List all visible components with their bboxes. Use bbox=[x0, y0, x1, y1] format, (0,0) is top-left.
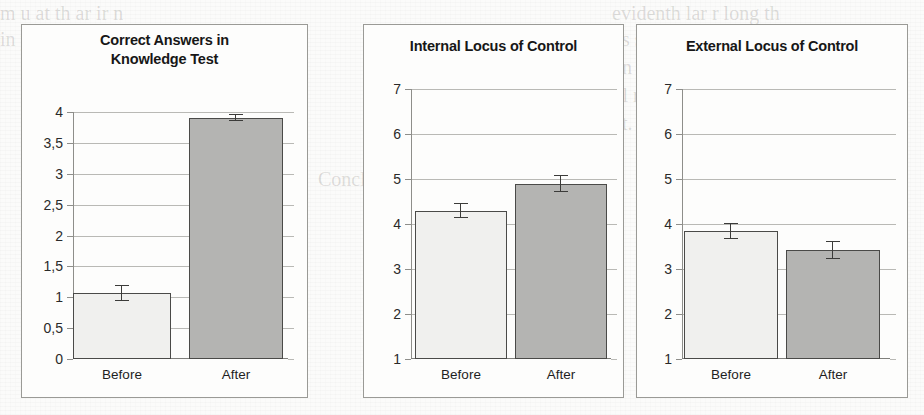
y-axis-tick-right bbox=[288, 143, 294, 144]
error-bar-cap-bottom bbox=[115, 300, 129, 301]
y-axis-label: 6 bbox=[367, 127, 401, 141]
y-axis-tick-right bbox=[288, 174, 294, 175]
y-axis-tick-right bbox=[288, 359, 294, 360]
y-axis-label: 0,5 bbox=[23, 321, 63, 335]
x-axis-label-before: Before bbox=[73, 367, 171, 382]
y-axis-label: 4 bbox=[23, 105, 63, 119]
y-axis-tick-right bbox=[288, 205, 294, 206]
chart-title-line: Internal Locus of Control bbox=[364, 37, 623, 56]
bar-internal-locus-before bbox=[415, 211, 507, 360]
error-bar bbox=[229, 114, 243, 120]
error-bar bbox=[115, 285, 129, 301]
error-bar-cap-bottom bbox=[826, 258, 840, 259]
y-axis-tick-right bbox=[611, 179, 617, 180]
y-axis-label: 2 bbox=[638, 307, 672, 321]
error-bar-cap-top bbox=[724, 223, 738, 224]
y-axis-tick-right bbox=[611, 314, 617, 315]
y-axis-label: 5 bbox=[638, 172, 672, 186]
y-axis-tick-right bbox=[890, 314, 896, 315]
y-axis-line bbox=[411, 89, 412, 359]
y-axis-tick-right bbox=[288, 297, 294, 298]
error-bar bbox=[554, 175, 568, 191]
error-bar bbox=[724, 223, 738, 239]
error-bar bbox=[826, 241, 840, 259]
x-axis-label-before: Before bbox=[415, 367, 507, 382]
error-bar-stem bbox=[560, 175, 561, 191]
x-axis-label-after: After bbox=[515, 367, 607, 382]
y-axis-tick-right bbox=[890, 179, 896, 180]
y-axis-tick-right bbox=[611, 224, 617, 225]
y-axis-tick-right bbox=[890, 89, 896, 90]
chart-title-external-locus: External Locus of Control bbox=[637, 37, 907, 56]
bar-knowledge-test-after bbox=[189, 118, 283, 359]
y-axis-tick-right bbox=[611, 89, 617, 90]
chart-title-line: Knowledge Test bbox=[22, 50, 307, 69]
y-axis-label: 4 bbox=[638, 217, 672, 231]
x-axis-label-after: After bbox=[786, 367, 880, 382]
y-axis-tick bbox=[67, 359, 73, 360]
chart-title-internal-locus: Internal Locus of Control bbox=[364, 37, 623, 56]
error-bar-stem bbox=[460, 203, 461, 217]
y-axis-label: 7 bbox=[638, 82, 672, 96]
y-axis-label: 3 bbox=[23, 167, 63, 181]
y-axis-tick-right bbox=[611, 359, 617, 360]
gridline bbox=[411, 89, 611, 90]
y-axis-label: 1,5 bbox=[23, 259, 63, 273]
gridline bbox=[682, 134, 890, 135]
chart-panel-internal-locus: Internal Locus of Control7654321BeforeAf… bbox=[363, 24, 624, 398]
gridline bbox=[411, 179, 611, 180]
bar-internal-locus-after bbox=[515, 184, 607, 360]
y-axis-tick-right bbox=[288, 112, 294, 113]
y-axis-label: 5 bbox=[367, 172, 401, 186]
error-bar-stem bbox=[832, 241, 833, 259]
error-bar-cap-top bbox=[115, 285, 129, 286]
gridline bbox=[411, 134, 611, 135]
error-bar-cap-bottom bbox=[229, 120, 243, 121]
chart-title-line: Correct Answers in bbox=[22, 31, 307, 50]
bar-external-locus-after bbox=[786, 250, 880, 359]
plot-area-knowledge-test bbox=[73, 112, 288, 359]
y-axis-label: 2 bbox=[23, 229, 63, 243]
y-axis-label: 7 bbox=[367, 82, 401, 96]
y-axis-label: 1 bbox=[367, 352, 401, 366]
chart-title-knowledge-test: Correct Answers inKnowledge Test bbox=[22, 31, 307, 69]
bar-knowledge-test-before bbox=[73, 293, 171, 359]
chart-title-line: External Locus of Control bbox=[637, 37, 907, 56]
y-axis-tick bbox=[405, 359, 411, 360]
y-axis-label: 3 bbox=[638, 262, 672, 276]
error-bar-cap-top bbox=[229, 114, 243, 115]
y-axis-tick-right bbox=[890, 134, 896, 135]
error-bar-cap-bottom bbox=[454, 217, 468, 218]
y-axis-tick-right bbox=[611, 134, 617, 135]
gridline bbox=[682, 224, 890, 225]
y-axis-label: 0 bbox=[23, 352, 63, 366]
y-axis-tick-right bbox=[611, 269, 617, 270]
bar-external-locus-before bbox=[684, 231, 778, 359]
chart-panel-external-locus: External Locus of Control7654321BeforeAf… bbox=[636, 24, 908, 398]
y-axis-tick-right bbox=[890, 359, 896, 360]
y-axis-tick-right bbox=[890, 224, 896, 225]
error-bar-cap-top bbox=[826, 241, 840, 242]
y-axis-tick-right bbox=[288, 266, 294, 267]
error-bar-cap-bottom bbox=[554, 191, 568, 192]
y-axis-line bbox=[682, 89, 683, 359]
gridline bbox=[682, 179, 890, 180]
y-axis-label: 1 bbox=[23, 290, 63, 304]
y-axis-label: 2 bbox=[367, 307, 401, 321]
y-axis-tick-right bbox=[288, 236, 294, 237]
y-axis-label: 3 bbox=[367, 262, 401, 276]
plot-area-internal-locus bbox=[411, 89, 611, 359]
y-axis-label: 6 bbox=[638, 127, 672, 141]
y-axis-tick bbox=[676, 359, 682, 360]
y-axis-label: 1 bbox=[638, 352, 672, 366]
error-bar-cap-top bbox=[554, 175, 568, 176]
gridline bbox=[682, 89, 890, 90]
gridline bbox=[73, 112, 288, 113]
x-axis-label-before: Before bbox=[684, 367, 778, 382]
figure-panel-group: Correct Answers inKnowledge Test43,532,5… bbox=[0, 0, 924, 415]
error-bar-cap-top bbox=[454, 203, 468, 204]
error-bar-stem bbox=[730, 223, 731, 239]
error-bar-stem bbox=[121, 285, 122, 301]
x-axis-label-after: After bbox=[189, 367, 283, 382]
y-axis-tick-right bbox=[890, 269, 896, 270]
